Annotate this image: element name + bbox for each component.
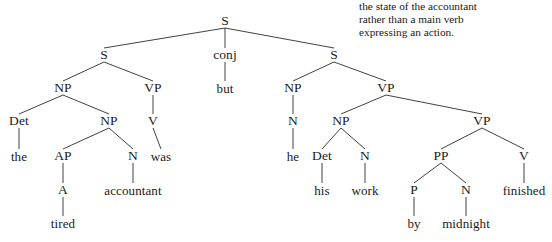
tree-edge-NP-left-to-NP-inner	[63, 95, 109, 114]
tree-edge-VP-inner-to-PP	[441, 128, 482, 149]
tree-node-A: A	[58, 183, 68, 197]
annotation-note: the state of the accountant rather than …	[359, 0, 549, 40]
tree-node-finished: finished	[503, 184, 546, 197]
tree-node-N-he: N	[288, 114, 298, 128]
tree-node-accountant: accountant	[104, 184, 161, 197]
tree-edge-S-root-to-S-left	[104, 28, 225, 48]
tree-node-he: he	[287, 150, 299, 163]
tree-node-his: his	[314, 184, 329, 197]
tree-node-V-finished: V	[519, 149, 529, 163]
syntax-tree-figure: SSconjSbutNPVPNPVPDetNPVNNPVPtheAPNwashe…	[0, 0, 552, 242]
tree-edge-V-was-to-was	[153, 128, 161, 149]
tree-edge-VP-right-to-NP-work	[341, 95, 386, 114]
tree-node-tired: tired	[51, 217, 75, 230]
tree-node-Det-his: Det	[312, 149, 332, 163]
tree-edge-S-right-to-VP-right	[334, 62, 386, 81]
tree-edge-NP-inner-to-AP	[63, 128, 109, 149]
tree-node-N-work: N	[360, 149, 370, 163]
tree-node-VP-right: VP	[377, 81, 394, 95]
tree-node-by: by	[407, 217, 420, 230]
tree-node-Det-the: Det	[9, 114, 29, 128]
tree-node-but: but	[217, 82, 234, 95]
tree-node-NP-work: NP	[332, 114, 349, 128]
tree-node-PP: PP	[433, 149, 448, 163]
tree-edge-PP-to-N-midnight	[441, 163, 466, 183]
tree-node-VP-inner: VP	[473, 114, 490, 128]
tree-node-VP-left: VP	[144, 81, 161, 95]
tree-node-midnight: midnight	[442, 217, 490, 230]
tree-node-was: was	[151, 150, 172, 163]
tree-node-V-was: V	[148, 114, 158, 128]
tree-node-work: work	[351, 184, 378, 197]
tree-node-S-left: S	[100, 48, 108, 62]
tree-node-N-midnight: N	[461, 183, 471, 197]
tree-edge-NP-work-to-N-work	[341, 128, 365, 149]
tree-node-NP-left: NP	[54, 81, 71, 95]
tree-node-S-root: S	[221, 14, 229, 28]
tree-edge-PP-to-P	[414, 163, 441, 183]
tree-node-P: P	[410, 183, 418, 197]
tree-edge-S-root-to-S-right	[225, 28, 334, 48]
tree-edge-VP-right-to-VP-inner	[386, 95, 482, 114]
tree-edge-VP-inner-to-V-finished	[482, 128, 524, 149]
tree-node-NP-inner: NP	[100, 114, 117, 128]
tree-edge-NP-inner-to-N-accountant	[109, 128, 133, 149]
tree-edge-S-left-to-NP-left	[63, 62, 104, 81]
tree-node-conj: conj	[213, 48, 237, 62]
tree-edge-S-left-to-VP-left	[104, 62, 153, 81]
tree-node-S-right: S	[330, 48, 338, 62]
tree-node-NP-he: NP	[284, 81, 301, 95]
tree-node-N-accountant: N	[128, 149, 138, 163]
tree-node-AP: AP	[54, 149, 71, 163]
tree-node-the: the	[11, 150, 27, 163]
tree-edge-NP-work-to-Det-his	[322, 128, 341, 149]
tree-edge-NP-left-to-Det-the	[19, 95, 63, 114]
tree-edge-S-right-to-NP-he	[293, 62, 334, 81]
